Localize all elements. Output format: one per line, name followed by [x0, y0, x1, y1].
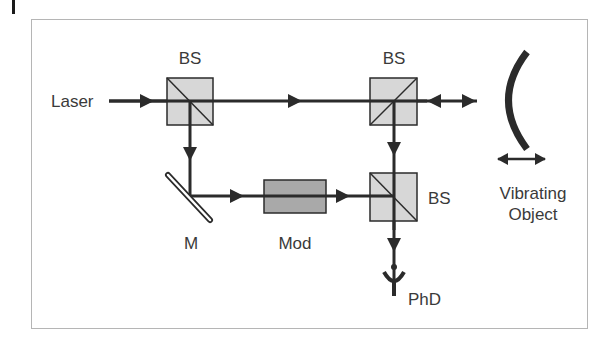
label-bs3: BS: [428, 189, 451, 208]
photodetector-icon: [384, 264, 404, 296]
label-laser: Laser: [51, 92, 94, 111]
label-mirror: M: [184, 234, 198, 253]
arrow-right-icon: [462, 94, 476, 108]
label-object-line1: Vibrating: [500, 184, 567, 203]
arrow-icon: [230, 189, 244, 203]
label-object-line2: Object: [508, 205, 557, 224]
modulator: [264, 180, 326, 213]
beam-paths: [109, 101, 545, 290]
optical-diagram: Laser BS BS BS M Mod Vibrating Object Ph…: [0, 0, 615, 341]
arrow-right-icon: [535, 153, 546, 165]
arrow-icon: [336, 189, 350, 203]
label-modulator: Mod: [278, 234, 311, 253]
arrow-icon: [387, 238, 401, 252]
beam-splitter-1: [109, 78, 213, 125]
arrow-icon: [183, 147, 197, 161]
vibrating-object-arc: [509, 52, 528, 149]
label-bs2: BS: [383, 49, 406, 68]
label-detector: PhD: [408, 290, 441, 309]
arrow-icon: [288, 94, 302, 108]
beam-splitter-2: [370, 78, 417, 125]
arrow-left-icon: [427, 94, 441, 108]
arrow-left-icon: [497, 153, 508, 165]
arrow-icon: [387, 142, 401, 156]
beam-splitter-3: [370, 173, 417, 230]
label-bs1: BS: [179, 49, 202, 68]
